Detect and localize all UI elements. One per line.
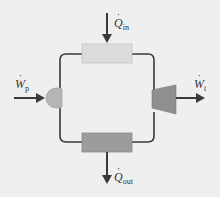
w-t-label: ·Wt [194,78,206,93]
w-p-label: ·Wp [15,78,29,93]
turbine-icon [152,85,176,114]
q-in-arrow [102,13,112,43]
q-out-arrow [102,152,112,184]
w-t-arrow [176,93,205,103]
cycle-diagram [0,0,220,197]
pump-icon [46,88,62,108]
heat-rejection-box [82,133,132,152]
heat-addition-box [82,44,132,63]
w-p-arrow [14,93,45,103]
q-in-label: ·Qin [114,17,129,32]
pipe-loop [60,54,154,142]
q-out-label: ·Qout [114,171,133,186]
